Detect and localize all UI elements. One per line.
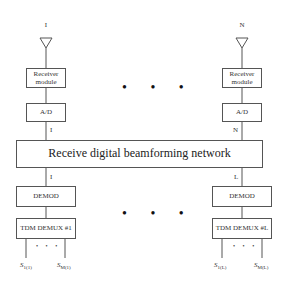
tdm-demux-right: TDM DEMUX #L [212, 218, 272, 239]
output-label-sm-1: SM(1) [57, 261, 71, 270]
ellipsis-top: • • • [122, 80, 194, 96]
output-ellipsis-right: • • • [233, 243, 257, 249]
ad-converter-right: A/D [222, 103, 262, 122]
antenna-icon-left [40, 38, 52, 48]
tdm-demux-left: TDM DEMUX #1 [16, 218, 76, 239]
output-ellipsis-left: • • • [36, 243, 60, 249]
ad-output-label-left: I [50, 127, 52, 134]
beamforming-network: Receive digital beamforming network [16, 140, 263, 168]
output-label-s1-l: S1(L) [214, 261, 226, 270]
beam-output-label-left: I [50, 174, 52, 181]
output-label-sm-l: SM(L) [254, 261, 268, 270]
antenna-label-left: I [42, 22, 50, 29]
antenna-label-right: N [238, 22, 246, 29]
beam-output-label-right: L [234, 174, 238, 181]
receiver-module-left: Receiver module [26, 68, 66, 88]
antenna-icon-right [236, 38, 248, 48]
demod-right: DEMOD [212, 186, 272, 207]
ad-converter-left: A/D [26, 103, 66, 122]
ad-output-label-right: N [233, 127, 238, 134]
demod-left: DEMOD [16, 186, 76, 207]
output-label-s1-1: S1(1) [20, 261, 32, 270]
receiver-module-right: Receiver module [222, 68, 262, 88]
ellipsis-bottom: • • • [122, 206, 194, 222]
